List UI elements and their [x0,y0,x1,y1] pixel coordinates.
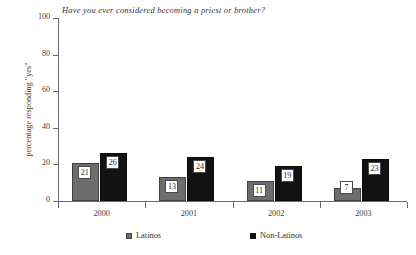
y-axis-tick-label: 40 [24,123,50,131]
y-axis-tick-label: 0 [24,196,50,204]
plot-area: 212613241119723 [58,18,407,201]
y-axis-tick-label: 20 [24,159,50,167]
x-axis-tick [320,202,321,208]
bar-value-label: 26 [106,156,119,169]
legend-item-latino[interactable]: Latinos [126,231,161,240]
y-axis-tick-label: 100 [24,13,50,21]
legend-label: Latinos [136,231,161,240]
legend-label: Non-Latinos [260,231,302,240]
legend-item-nonlatino[interactable]: Non-Latinos [250,231,302,240]
bar-value-label: 23 [368,162,381,175]
bar-value-label: 24 [193,160,206,173]
y-axis-tick-label: 60 [24,86,50,94]
legend-swatch-icon [250,233,256,239]
bar-value-label: 11 [253,184,266,197]
x-axis-tick-label: 2000 [77,209,127,218]
bar-value-label: 13 [165,180,178,193]
chart-legend: LatinosNon-Latinos [58,231,407,249]
x-axis-tick-label: 2002 [251,209,301,218]
chart-figure: Have you ever considered becoming a prie… [0,0,416,255]
x-axis-tick [233,202,234,208]
x-axis-tick-label: 2001 [164,209,214,218]
x-axis-tick-label: 2003 [338,209,388,218]
x-axis-tick-end [58,202,59,208]
bar-value-label: 19 [281,169,294,182]
x-axis-tick-end [407,202,408,208]
bar-value-label: 21 [78,166,91,179]
legend-swatch-icon [126,233,132,239]
y-axis-title: percentage responding "yes" [24,20,33,200]
x-axis-tick [145,202,146,208]
bar-value-label: 7 [340,181,353,194]
y-axis-tick-label: 80 [24,50,50,58]
chart-title: Have you ever considered becoming a prie… [62,6,362,15]
